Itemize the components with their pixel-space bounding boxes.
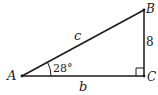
side-label-b: b — [79, 79, 87, 94]
vertex-b-dot — [143, 9, 146, 12]
triangle-diagram: A B C c b 8 28° — [0, 0, 158, 95]
vertex-a-dot — [21, 75, 24, 78]
vertex-label-b: B — [145, 2, 155, 16]
vertex-label-a: A — [6, 68, 16, 83]
vertex-c-dot — [143, 75, 146, 78]
right-angle-marker — [136, 68, 144, 76]
vertex-label-c: C — [147, 70, 156, 84]
side-label-bc: 8 — [146, 35, 154, 49]
angle-label-a: 28° — [53, 62, 73, 75]
side-c — [22, 10, 144, 76]
angle-arc-a — [48, 62, 52, 76]
side-label-c: c — [74, 28, 82, 43]
